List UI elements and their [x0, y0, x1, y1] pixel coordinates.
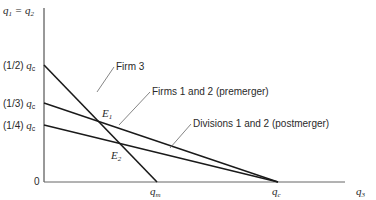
firm3-label: Firm 3 — [116, 61, 145, 72]
premerger-label: Firms 1 and 2 (premerger) — [152, 86, 269, 97]
origin-label: 0 — [34, 176, 40, 187]
point-e1: E1 — [101, 107, 112, 121]
firm3-leader — [97, 67, 114, 92]
y-axis-label: q1 = q2 — [3, 4, 34, 18]
reaction-function-diagram: q1 = q2 (1/2) qc (1/3) qc (1/4) qc 0 qm … — [0, 0, 376, 200]
premerger-leader — [119, 92, 150, 125]
y-tick-quarter-qc: (1/4) qc — [3, 119, 36, 132]
x-axis-label: q3 — [356, 185, 366, 199]
postmerger-line — [44, 125, 278, 182]
y-tick-third-qc: (1/3) qc — [3, 97, 36, 110]
postmerger-label: Divisions 1 and 2 (postmerger) — [193, 118, 329, 129]
x-tick-qc: qc — [272, 185, 282, 199]
firm3-line — [44, 65, 157, 182]
postmerger-leader — [170, 124, 191, 148]
x-tick-qm: qm — [150, 185, 161, 199]
point-e2: E2 — [110, 149, 122, 163]
premerger-line — [44, 103, 278, 182]
y-tick-half-qc: (1/2) qc — [3, 59, 36, 72]
